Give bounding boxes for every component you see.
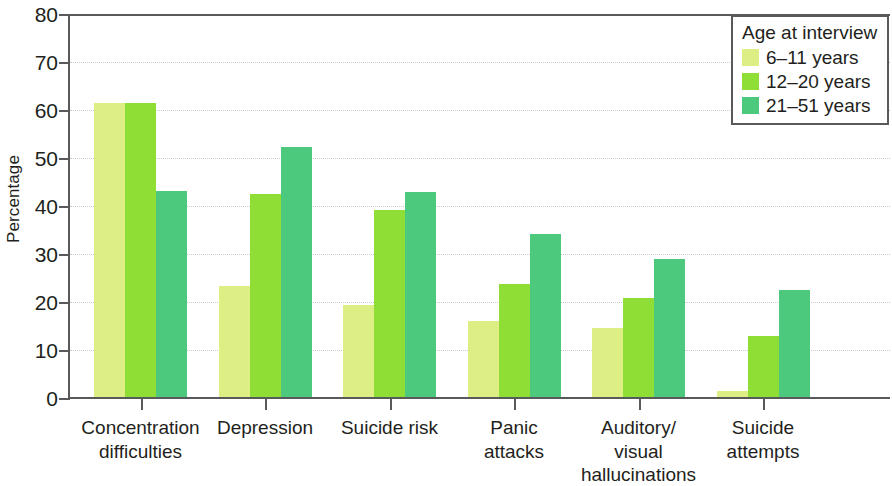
bar — [125, 103, 156, 397]
gridline — [70, 254, 890, 255]
y-axis-tick-label: 80 — [16, 4, 58, 25]
legend-entry-label: 6–11 years — [766, 47, 859, 69]
bar — [623, 298, 654, 397]
x-axis-tick-mark — [763, 399, 765, 410]
y-axis-tick-label: 0 — [16, 388, 58, 409]
legend-title: Age at interview — [742, 22, 877, 44]
bar — [343, 305, 374, 397]
y-axis-tick-label: 60 — [16, 100, 58, 121]
y-axis-tick-mark — [59, 302, 70, 304]
x-axis-tick-mark — [514, 399, 516, 410]
y-axis-tick-label: 50 — [16, 148, 58, 169]
x-axis-tick-mark — [390, 399, 392, 410]
bar — [779, 290, 810, 397]
bar — [405, 192, 436, 397]
y-axis-tick-mark — [59, 110, 70, 112]
y-axis-tick-mark — [59, 206, 70, 208]
gridline — [70, 302, 890, 303]
y-axis-tick-label: 40 — [16, 196, 58, 217]
x-axis-tick-mark — [265, 399, 267, 410]
legend-entries: 6–11 years12–20 years21–51 years — [742, 47, 877, 117]
legend-entry: 6–11 years — [742, 47, 877, 69]
legend-entry-label: 21–51 years — [766, 95, 871, 117]
gridline — [70, 158, 890, 159]
legend-entry-label: 12–20 years — [766, 71, 871, 93]
legend-swatch-icon — [742, 49, 759, 66]
y-axis-tick-label: 30 — [16, 244, 58, 265]
legend-swatch-icon — [742, 73, 759, 90]
legend-entry: 21–51 years — [742, 95, 877, 117]
legend-swatch-icon — [742, 97, 759, 114]
bar — [499, 284, 530, 397]
y-axis-tick-mark — [59, 14, 70, 16]
y-axis-tick-mark — [59, 398, 70, 400]
bar — [374, 210, 405, 397]
x-axis-tick-mark — [639, 399, 641, 410]
y-axis-tick-mark — [59, 62, 70, 64]
y-axis-tick-mark — [59, 158, 70, 160]
bar — [156, 191, 187, 397]
gridline — [70, 206, 890, 207]
y-axis-tick-labels: 01020304050607080 — [14, 0, 58, 486]
bar — [219, 286, 250, 397]
y-axis-tick-label: 10 — [16, 340, 58, 361]
bar — [654, 259, 685, 397]
y-axis-tick-mark — [59, 350, 70, 352]
bar — [468, 321, 499, 397]
legend-entry: 12–20 years — [742, 71, 877, 93]
legend: Age at interview 6–11 years12–20 years21… — [731, 15, 889, 125]
y-axis-tick-label: 70 — [16, 52, 58, 73]
bar — [748, 336, 779, 397]
bar — [592, 328, 623, 397]
x-axis-line — [68, 397, 890, 399]
x-axis-tick-mark — [141, 399, 143, 410]
bar — [250, 194, 281, 397]
bar — [530, 234, 561, 397]
bar-chart-figure: Percentage 01020304050607080 Concentrati… — [0, 0, 892, 486]
bar — [94, 103, 125, 397]
y-axis-tick-mark — [59, 254, 70, 256]
x-axis-tick-label: Suicide attempts — [688, 416, 838, 463]
bar — [717, 391, 748, 397]
y-axis-tick-label: 20 — [16, 292, 58, 313]
bar — [281, 147, 312, 397]
